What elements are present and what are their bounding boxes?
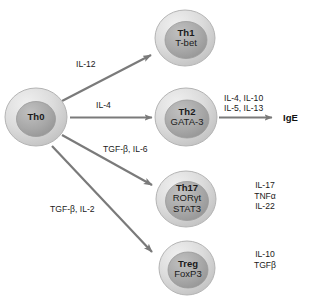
output-th17-line2: TNFα	[254, 191, 276, 201]
edge-label-tgfb-il6: TGF-β, IL-6	[103, 144, 148, 154]
output-ige: IgE	[283, 112, 298, 123]
cell-th1	[155, 10, 215, 66]
output-th17-line1: IL-17	[255, 180, 275, 190]
output-th17-cytokines: IL-17 TNFα IL-22	[235, 180, 295, 212]
cell-th0	[5, 88, 67, 146]
arrow-th0-to-th17	[62, 135, 152, 185]
edge-label-tgfb-il2: TGF-β, IL-2	[50, 204, 95, 214]
cell-th2	[155, 88, 217, 146]
output-treg-line1: IL-10	[255, 249, 275, 259]
output-th17-line3: IL-22	[255, 201, 275, 211]
edge-label-il12: IL-12	[76, 59, 96, 69]
output-treg-line2: TGFβ	[254, 260, 276, 270]
edge-label-th2-ige-line2: IL-5, IL-13	[224, 103, 263, 113]
th-cell-differentiation-diagram: Th0 Th1 T-bet Th2 GATA-3 Th17 RORγt STAT…	[0, 0, 318, 301]
output-treg-cytokines: IL-10 TGFβ	[235, 249, 295, 270]
cell-th17	[156, 171, 216, 227]
edge-label-th2-to-ige: IL-4, IL-10 IL-5, IL-13	[224, 93, 263, 114]
edge-label-il4: IL-4	[96, 100, 111, 110]
arrow-th0-to-treg	[52, 146, 152, 252]
edge-label-th2-ige-line1: IL-4, IL-10	[224, 93, 263, 103]
cell-treg	[159, 241, 215, 295]
